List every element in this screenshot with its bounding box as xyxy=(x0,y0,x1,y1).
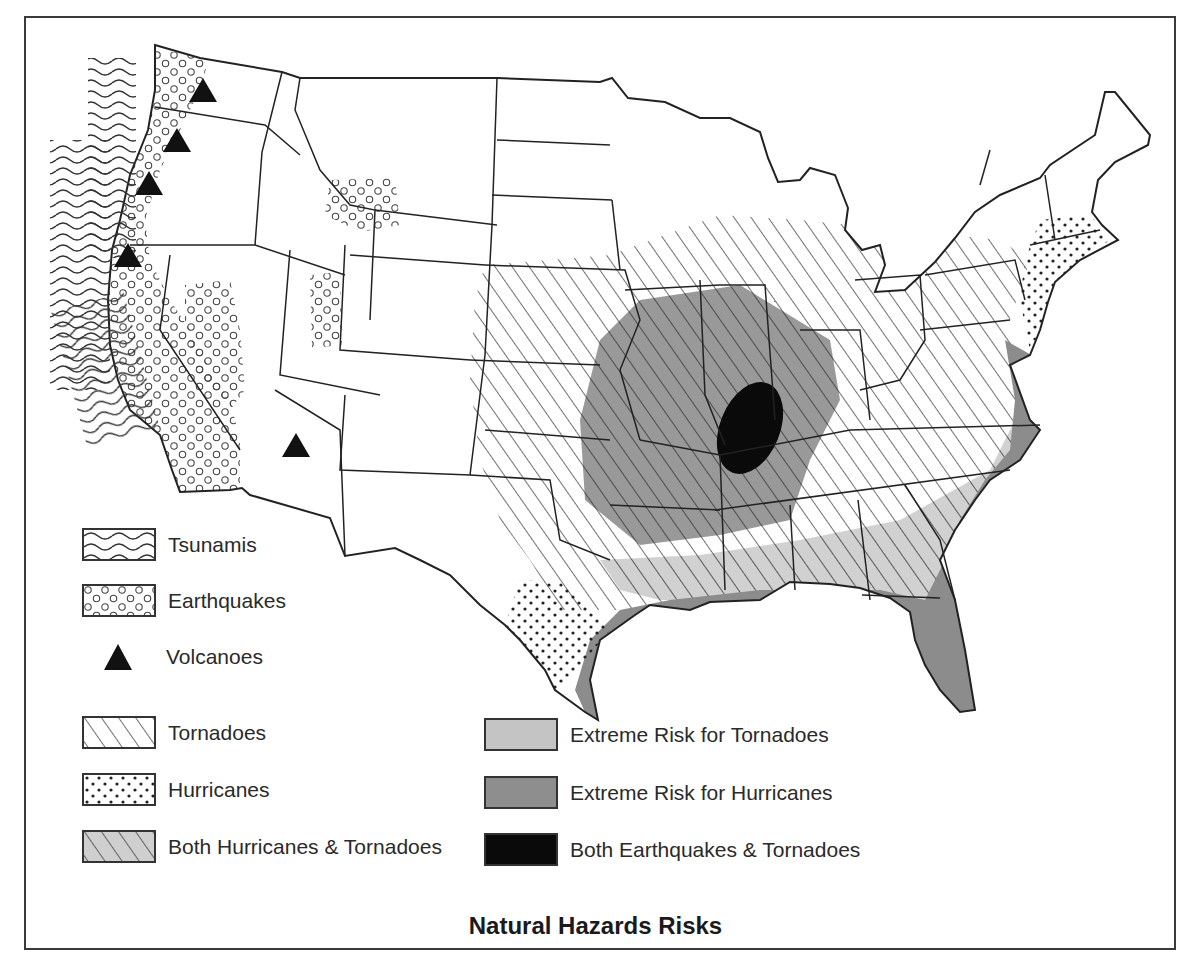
waves-swatch-icon xyxy=(82,528,156,561)
earthquake-zone-utah xyxy=(310,272,342,348)
legend-label: Earthquakes xyxy=(168,589,286,613)
legend-label: Tornadoes xyxy=(168,721,266,745)
us-hazard-map xyxy=(0,0,1191,970)
circles-swatch-icon xyxy=(82,584,156,617)
legend-label: Tsunamis xyxy=(168,533,257,557)
gray-lines-swatch-icon xyxy=(82,830,156,863)
legend-item-earthquakes-tornadoes: Both Earthquakes & Tornadoes xyxy=(484,833,860,866)
legend-label: Hurricanes xyxy=(168,778,270,802)
legend-item-tornadoes: Tornadoes xyxy=(82,716,266,749)
legend-item-tsunamis: Tsunamis xyxy=(82,528,257,561)
legend-item-extreme-hurricanes: Extreme Risk for Hurricanes xyxy=(484,776,833,809)
legend-item-hurricanes: Hurricanes xyxy=(82,773,270,806)
legend-item-both-hurricanes-tornadoes: Both Hurricanes & Tornadoes xyxy=(82,830,442,863)
diagonal-lines-swatch-icon xyxy=(82,716,156,749)
legend-label: Volcanoes xyxy=(166,645,263,669)
volcano-icon xyxy=(104,644,132,670)
legend-label: Both Earthquakes & Tornadoes xyxy=(570,838,860,862)
black-swatch-icon xyxy=(484,833,558,866)
legend-label: Both Hurricanes & Tornadoes xyxy=(168,835,442,859)
light-gray-swatch-icon xyxy=(484,718,558,751)
legend-label: Extreme Risk for Tornadoes xyxy=(570,723,829,747)
legend-label: Extreme Risk for Hurricanes xyxy=(570,781,833,805)
legend-item-earthquakes: Earthquakes xyxy=(82,584,286,617)
legend-item-volcanoes: Volcanoes xyxy=(82,644,263,670)
dots-swatch-icon xyxy=(82,773,156,806)
map-title: Natural Hazards Risks xyxy=(0,912,1191,940)
legend-item-extreme-tornadoes: Extreme Risk for Tornadoes xyxy=(484,718,829,751)
dark-gray-swatch-icon xyxy=(484,776,558,809)
